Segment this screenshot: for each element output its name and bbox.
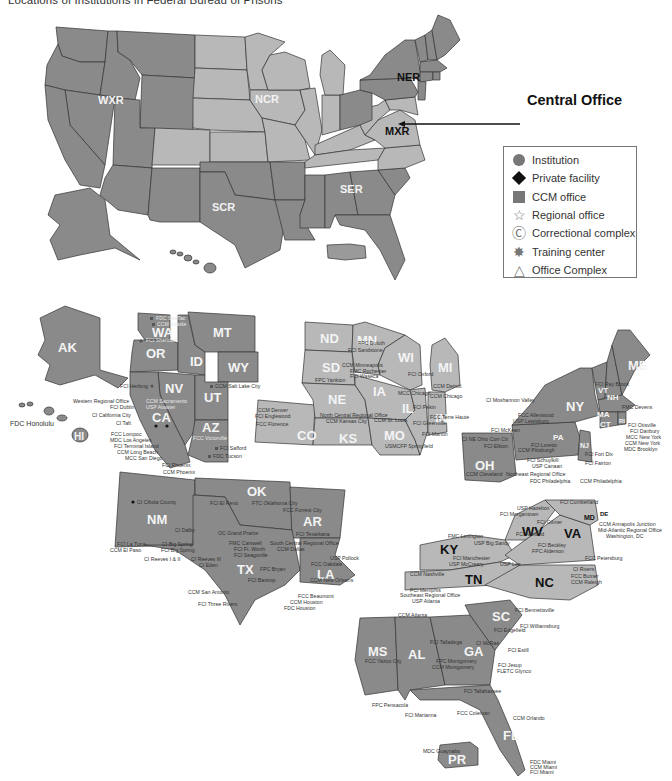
legend-label: Correctional complex [532,227,635,239]
facility-label: FLETC Glynco [497,668,531,674]
facility-label: FCC Oakdale [311,561,343,567]
facility-label: FTC Oklahoma City [252,500,298,506]
label-nm: NM [147,512,167,527]
legend-item-office-complex: △ Office Complex [512,261,636,279]
state-wy [140,75,195,130]
facility-label: FCI Oxford [408,371,433,377]
label-mi: MI [438,360,452,375]
facility-label: FCI Big Spring [161,547,195,553]
facility-label: CCM Cleveland [466,471,502,477]
facility-label: FCI Herlong [120,383,148,389]
label-tx: TX [237,562,254,577]
facility-label: FCI Pekin [413,404,436,410]
facility-label: FDC Tucson [213,453,242,459]
facility-label: FDC Philadelphia [530,478,570,484]
facility-label: CI NE Ohio Corr Ctr [462,436,508,442]
facility-label: FCC Florence [256,421,288,427]
facility-label: FCI Waseca [350,373,378,379]
facility-label: USP Atwater [146,404,176,410]
facility-label: CCM Orlando [513,715,545,721]
state-ct [420,72,433,82]
state-ri [433,72,440,80]
facility-label: MCC Chicago [398,390,430,396]
facility-label: FCI Texarkana [296,531,330,537]
region-label-ncr: NCR [255,93,279,105]
starburst-icon: ✸ [512,245,526,259]
label-ks: KS [339,431,357,446]
facility-label: MCC San Diego [125,455,163,461]
facility-label: MDC Brooklyn [624,446,658,452]
facility-label: FCI Safford [220,445,247,451]
facility-label: FCI McKean [491,427,520,433]
label-fl: FL [503,728,519,743]
legend-label: Training center [532,246,605,258]
facility-label: FCI Dublin [110,404,135,410]
facility-label: CCM Raleigh [571,579,602,585]
square-icon [512,190,526,204]
label-ct: CT [600,420,611,429]
label-co: CO [297,428,317,443]
facility-label: FPC Bryan [260,566,285,572]
facility-label: USP Big Sandy [474,540,510,546]
label-al: AL [408,647,425,662]
label-nj: NJ [580,442,589,449]
state-nj [418,80,426,100]
facility-label: Northeast Regional Office [506,471,565,477]
facility-label: FMC Devens [622,404,653,410]
label-nd: ND [320,331,339,346]
facility-label: FPC Duluth [358,340,385,346]
label-mt: MT [213,325,232,340]
state-ma [420,60,447,72]
legend-item-ccm-office: CCM office [512,188,636,206]
label-ga: GA [464,644,484,659]
label-ms: MS [368,644,388,659]
facility-label: FPC Alderson [532,548,564,554]
label-ne: NE [328,392,346,407]
facility-label: FPC Pensacola [372,702,408,708]
facility-label: FCI Fairton [585,460,611,466]
facility-label: FCI Marianna [405,712,437,718]
region-label-scr: SCR [212,201,235,213]
state-nc [378,145,425,170]
facility-label: FCI Tallahassee [464,688,501,694]
label-or: OR [146,346,166,361]
legend-label: CCM office [532,191,586,203]
facility-label: FCC Forrest City [283,507,322,513]
label-sc: SC [492,609,511,624]
facility-label: Washington, DC [606,533,644,539]
diamond-icon [512,171,526,185]
facility-label: FCI Sheridan [146,337,177,343]
detail-nm [115,472,195,547]
facility-label: FCI Miami [530,769,554,775]
legend-item-institution: Institution [512,151,636,169]
facility-label: CI Taft [116,420,131,426]
state-nd [195,35,247,70]
label-hi: HI [74,431,84,442]
facility-label: FPC Yankton [315,377,345,383]
circled-c-icon: Ⓒ [512,226,526,240]
overview-map: WXR NCR SCR SER NER MXR [45,15,520,280]
facility-label: FCI Ray Brook [595,381,629,387]
facility-label: CCM Seattle [157,321,187,327]
facility-label: CCM Chicago [430,393,462,399]
detail-pa [512,422,580,460]
facility-label: CCM El Paso [110,547,141,553]
state-co [152,128,210,165]
facility-label: FCI Greenville [413,420,446,426]
central-office-label: Central Office [527,92,622,108]
facility-label: CCM San Antonio [188,589,229,595]
state-me [432,15,460,60]
label-nc: NC [535,575,554,590]
facility-label: FCI Edgefield [494,627,526,633]
label-ia: IA [373,384,387,399]
legend-item-regional-office: ☆ Regional office [512,206,636,224]
facility-label: FMC Lexington [448,533,483,539]
region-label-ner: NER [397,71,420,83]
label-ca: CA [152,410,171,425]
territory-pr-overview [327,244,366,260]
facility-label: USP Canaan [532,463,562,469]
label-ma: MA [597,410,610,419]
facility-label: FCI Englewood [255,413,291,419]
label-ny: NY [566,399,584,414]
facility-label: USMCFP Springfield [385,443,433,449]
